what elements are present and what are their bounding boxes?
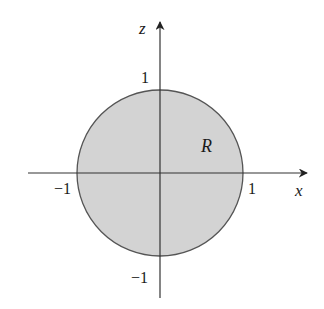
x-tick-1: 1 — [248, 180, 256, 197]
z-tick-1: 1 — [141, 69, 149, 86]
z-tick-neg1: −1 — [131, 269, 148, 286]
region-label: R — [200, 136, 212, 156]
region-diagram: z x 1 −1 −1 1 R — [0, 0, 324, 309]
x-tick-neg1: −1 — [54, 180, 71, 197]
x-axis-label: x — [294, 181, 303, 200]
z-axis-label: z — [138, 19, 146, 38]
